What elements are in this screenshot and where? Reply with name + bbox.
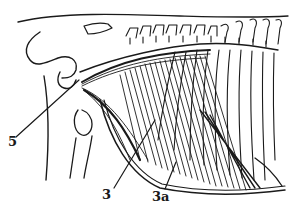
- scapula-outline: [26, 32, 76, 78]
- label-5: 5: [8, 135, 17, 148]
- scapula-spine: [84, 23, 112, 34]
- dorsal-outline: [18, 14, 288, 22]
- vertebrae: [126, 19, 281, 47]
- foreleg-elbow: [74, 110, 92, 135]
- leader-line-3: [114, 120, 155, 188]
- forearm: [70, 136, 92, 178]
- ventral-contour-inner: [104, 100, 285, 190]
- thorax-illustration: [0, 0, 290, 212]
- xiphoid-process: [255, 158, 282, 186]
- anatomical-figure: [0, 0, 290, 212]
- label-3: 3: [102, 188, 111, 201]
- foreleg-front: [44, 76, 48, 180]
- label-3a: 3a: [152, 190, 169, 203]
- ventral-contour: [100, 100, 285, 194]
